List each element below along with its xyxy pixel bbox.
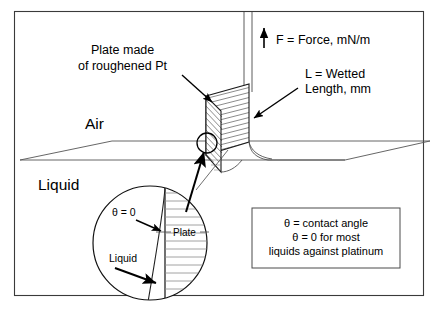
figure-container: F = Force, mN/m Plate made of roughened … bbox=[0, 0, 444, 318]
note-line-2: θ = 0 for most bbox=[292, 231, 360, 243]
plate-callout: Plate made of roughened Pt bbox=[78, 43, 212, 102]
plate-callout-line1: Plate made bbox=[91, 43, 154, 57]
inset-pointer-arrow bbox=[186, 152, 204, 212]
note-line-1: θ = contact angle bbox=[284, 217, 368, 229]
force-arrow-group: F = Force, mN/m bbox=[264, 28, 370, 48]
air-label: Air bbox=[85, 115, 104, 132]
wetted-length-line1: L = Wetted bbox=[305, 67, 365, 81]
inset-theta-label: θ = 0 bbox=[112, 206, 136, 218]
plate-3d bbox=[204, 84, 251, 172]
inset-plate-label: Plate bbox=[173, 227, 196, 238]
inset-liquid-label: Liquid bbox=[109, 252, 137, 264]
magnifier-inset: θ = 0 Plate Liquid bbox=[93, 186, 210, 302]
note-box: θ = contact angle θ = 0 for most liquids… bbox=[252, 208, 400, 268]
force-label: F = Force, mN/m bbox=[276, 33, 370, 47]
liquid-label: Liquid bbox=[38, 176, 79, 193]
inset-boundary-circle bbox=[93, 186, 207, 300]
wetted-length-callout: L = Wetted Length, mm bbox=[254, 67, 371, 118]
wilhelmy-plate-diagram: F = Force, mN/m Plate made of roughened … bbox=[0, 0, 444, 318]
plate-callout-line2: of roughened Pt bbox=[78, 59, 167, 73]
note-line-3: liquids against platinum bbox=[269, 245, 383, 257]
wetted-length-line2: Length, mm bbox=[305, 82, 371, 96]
meniscus-curves bbox=[221, 142, 345, 172]
suspension-rod bbox=[244, 12, 252, 96]
